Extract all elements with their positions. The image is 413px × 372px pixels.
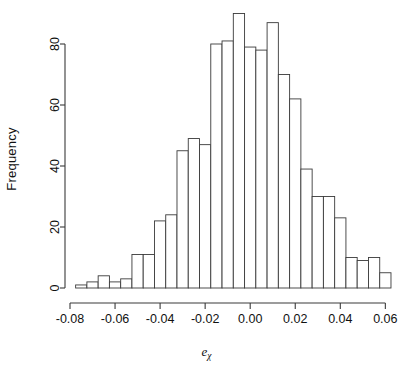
histogram-bar — [166, 215, 177, 288]
histogram-bar — [357, 261, 368, 288]
x-axis-tick-label: 0.00 — [238, 312, 262, 326]
chart-root: 020406080 -0.08-0.06-0.04-0.020.000.020.… — [0, 0, 413, 372]
x-axis-tick-label: -0.08 — [56, 312, 85, 326]
x-axis-tick-label: 0.04 — [328, 312, 352, 326]
histogram-bar — [211, 44, 222, 288]
histogram-bar — [256, 50, 267, 288]
histogram-bar — [233, 14, 244, 289]
x-axis-title-subscript: χ — [207, 351, 211, 361]
x-axis-title: eχ — [0, 344, 413, 361]
histogram-bar — [267, 23, 278, 288]
histogram-bar — [132, 254, 143, 288]
histogram-bar — [346, 258, 357, 289]
plot-area: 020406080 -0.08-0.06-0.04-0.020.000.020.… — [0, 0, 413, 372]
y-axis-tick-label: 0 — [48, 284, 62, 291]
x-axis-tick-label: 0.02 — [283, 312, 307, 326]
histogram-bar — [143, 254, 154, 288]
x-axis-tick-label: -0.04 — [146, 312, 175, 326]
histogram-bar — [323, 197, 334, 289]
histogram-bar — [121, 279, 132, 288]
histogram-bar — [290, 99, 301, 288]
y-axis-title-text: Frequency — [4, 94, 19, 224]
x-axis-tick-label: -0.02 — [191, 312, 220, 326]
histogram-bar — [380, 273, 391, 288]
histogram-bar — [154, 221, 165, 288]
x-axis-tick-label: 0.06 — [373, 312, 397, 326]
x-tick-labels: -0.08-0.06-0.04-0.020.000.020.040.06 — [56, 312, 398, 326]
histogram-bar — [109, 282, 120, 288]
y-axis-tick-label: 60 — [48, 98, 62, 112]
histogram-svg: 020406080 -0.08-0.06-0.04-0.020.000.020.… — [0, 0, 413, 372]
histogram-bar — [222, 41, 233, 288]
histogram-bar — [98, 276, 109, 288]
y-axis-tick-label: 40 — [48, 159, 62, 173]
y-axis-tick-label: 80 — [48, 37, 62, 51]
histogram-bar — [368, 258, 379, 289]
histogram-bar — [301, 169, 312, 288]
histogram-bars — [76, 14, 391, 289]
histogram-bar — [177, 151, 188, 288]
x-axis-tick-label: -0.06 — [101, 312, 130, 326]
y-axis-title: Frequency — [2, 0, 22, 96]
histogram-bar — [87, 282, 98, 288]
y-axis-tick-label: 20 — [48, 220, 62, 234]
histogram-bar — [76, 285, 87, 288]
histogram-bar — [245, 47, 256, 288]
histogram-bar — [335, 218, 346, 288]
y-tick-labels: 020406080 — [48, 37, 62, 291]
histogram-bar — [200, 145, 211, 288]
histogram-bar — [278, 75, 289, 289]
histogram-bar — [312, 197, 323, 289]
histogram-bar — [188, 139, 199, 288]
